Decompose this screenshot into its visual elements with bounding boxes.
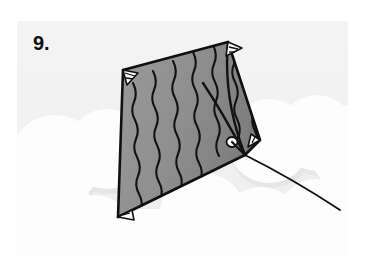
kite-illustration [17,21,348,255]
step-number: 9. [33,33,50,53]
illustration-panel [17,21,348,255]
figure-frame: 9. [0,0,372,275]
